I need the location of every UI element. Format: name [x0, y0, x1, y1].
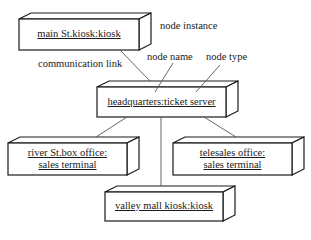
node-river-label-line1: river St.box office: — [8, 147, 127, 159]
annotation-node-type: node type — [206, 51, 247, 62]
node-river-label-line2: sales terminal — [8, 159, 127, 171]
node-tele-label-line1: telesales office: — [173, 147, 292, 159]
annotation-node-name: node name — [147, 51, 193, 62]
annotation-communication-link: communication link — [38, 58, 122, 69]
node-tele-label-line2: sales terminal — [173, 159, 292, 171]
annotation-node-instance: node instance — [160, 20, 217, 31]
node-river-label: river St.box office: sales terminal — [8, 147, 127, 171]
node-hq-label: headquarters:ticket server — [97, 96, 226, 108]
node-tele-label: telesales office: sales terminal — [173, 147, 292, 171]
node-valley-label: valley mall kiosk:kiosk — [105, 200, 223, 212]
node-main-label: main St.kiosk:kiosk — [19, 28, 139, 40]
